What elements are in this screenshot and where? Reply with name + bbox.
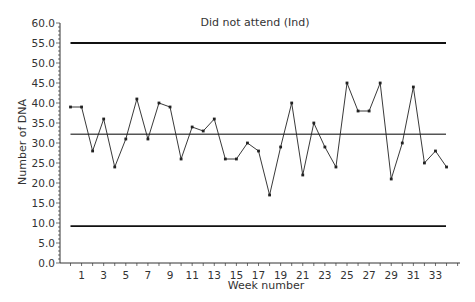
data-point-marker	[235, 158, 238, 161]
data-point-marker	[301, 174, 304, 177]
data-point-marker	[80, 106, 83, 109]
x-axis-title: Week number	[228, 279, 305, 292]
data-point-marker	[113, 166, 116, 169]
data-point-marker	[346, 82, 349, 85]
x-tick-label: 27	[362, 269, 375, 281]
data-point-marker	[69, 106, 72, 109]
y-tick-label: 60.0	[32, 17, 55, 29]
y-tick-label: 50.0	[32, 57, 55, 69]
data-point-marker	[368, 110, 371, 113]
data-point-marker	[357, 110, 360, 113]
data-point-marker	[268, 194, 271, 197]
x-tick-label: 7	[145, 269, 152, 281]
data-point-marker	[102, 118, 105, 121]
data-point-marker	[312, 122, 315, 125]
y-tick-label: 25.0	[32, 157, 55, 169]
x-tick-label: 3	[100, 269, 107, 281]
y-axis: 0.05.010.015.020.025.030.035.040.045.050…	[32, 17, 60, 269]
data-point-marker	[323, 146, 326, 149]
x-tick-label: 25	[340, 269, 353, 281]
y-tick-label: 45.0	[32, 77, 55, 89]
data-point-marker	[135, 98, 138, 101]
y-tick-label: 55.0	[32, 37, 55, 49]
data-point-marker	[279, 146, 282, 149]
x-tick-label: 13	[208, 269, 221, 281]
y-tick-label: 35.0	[32, 117, 55, 129]
data-point-marker	[401, 142, 404, 145]
y-tick-label: 10.0	[32, 217, 55, 229]
data-point-marker	[91, 150, 94, 153]
x-tick-label: 31	[407, 269, 420, 281]
x-tick-label: 5	[122, 269, 129, 281]
data-point-marker	[412, 86, 415, 89]
data-point-marker	[257, 150, 260, 153]
data-point-marker	[290, 102, 293, 105]
y-tick-label: 0.0	[38, 257, 55, 269]
data-point-marker	[434, 150, 437, 153]
x-tick-label: 29	[385, 269, 398, 281]
data-point-marker	[180, 158, 183, 161]
data-point-marker	[423, 162, 426, 165]
data-point-marker	[224, 158, 227, 161]
y-tick-label: 30.0	[32, 137, 55, 149]
control-chart: Did not attend (Ind) 0.05.010.015.020.02…	[0, 0, 475, 302]
y-tick-label: 40.0	[32, 97, 55, 109]
y-tick-label: 15.0	[32, 197, 55, 209]
y-axis-title: Number of DNA	[16, 99, 29, 185]
data-point-marker	[379, 82, 382, 85]
data-point-marker	[202, 130, 205, 133]
y-tick-label: 5.0	[38, 237, 55, 249]
data-point-marker	[124, 138, 127, 141]
data-point-marker	[445, 166, 448, 169]
data-point-marker	[335, 166, 338, 169]
data-point-marker	[191, 126, 194, 129]
data-series	[69, 82, 448, 197]
data-point-marker	[169, 106, 172, 109]
data-point-marker	[158, 102, 161, 105]
data-point-marker	[147, 138, 150, 141]
data-point-marker	[246, 142, 249, 145]
y-tick-label: 20.0	[32, 177, 55, 189]
chart-title: Did not attend (Ind)	[201, 16, 310, 29]
x-tick-label: 33	[429, 269, 442, 281]
data-point-marker	[390, 178, 393, 181]
data-point-marker	[213, 118, 216, 121]
x-tick-label: 11	[185, 269, 198, 281]
x-tick-label: 23	[318, 269, 331, 281]
x-tick-label: 1	[78, 269, 85, 281]
x-tick-label: 9	[167, 269, 174, 281]
